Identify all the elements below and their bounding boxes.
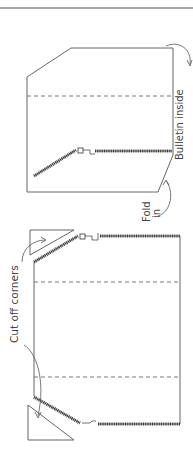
diagram-canvas: Bulletin inside Fold in Cut off corners: [0, 0, 193, 465]
bulletin-inside-label: Bulletin inside: [175, 89, 185, 160]
fold-over-arrow-icon: [166, 44, 190, 64]
flat-pouch-panel: [22, 230, 180, 440]
cut-off-corners-label: Cut off corners: [9, 265, 20, 343]
folded-pouch-panel: [27, 44, 192, 216]
fold-in-label: in: [152, 209, 162, 218]
cut-corner-bottom: [28, 405, 74, 440]
zipper-pull-icon: [80, 233, 98, 240]
zipper-pull-icon: [82, 421, 96, 423]
zipper-pull-icon: [78, 148, 95, 154]
leader-line: [24, 345, 41, 416]
